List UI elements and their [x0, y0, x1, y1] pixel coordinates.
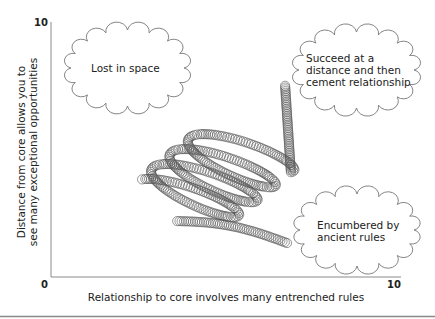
y-max-tick: 10 — [34, 17, 48, 28]
cloud-line: Encumbered by — [317, 219, 400, 231]
cloud-line: ancient rules — [317, 231, 400, 243]
cloud-line: cement relationship — [306, 76, 411, 88]
cloud-text-encumbered: Encumbered by ancient rules — [317, 219, 400, 243]
cloud-line: Lost in space — [91, 62, 160, 74]
diagram: 10 0 10 Distance from core allows you to… — [0, 0, 435, 319]
y-axis-label-line2: see many exceptional opportunities — [27, 58, 39, 246]
y-axis-label-line1: Distance from core allows you to — [15, 58, 27, 246]
cloud-line: distance and then — [306, 64, 411, 76]
origin-tick: 0 — [41, 279, 48, 290]
x-max-tick: 10 — [387, 279, 401, 290]
y-axis-label: Distance from core allows you to see man… — [15, 58, 39, 246]
diagram-canvas — [0, 0, 435, 319]
cloud-line: Succeed at a — [306, 52, 411, 64]
cloud-text-succeed: Succeed at a distance and then cement re… — [306, 52, 411, 88]
x-axis-label: Relationship to core involves many entre… — [88, 291, 364, 303]
cloud-text-lost-in-space: Lost in space — [91, 62, 160, 74]
